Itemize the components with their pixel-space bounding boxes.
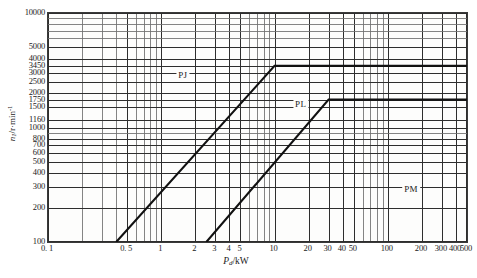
y-tick-label: 5000 bbox=[29, 42, 45, 51]
x-tick-label: 0. 1 bbox=[41, 243, 53, 253]
y-tick-label: 500 bbox=[33, 157, 45, 166]
x-tick-label: 10 bbox=[269, 243, 277, 253]
y-tick-label: 1000 bbox=[29, 122, 45, 131]
x-tick-label: 2 bbox=[192, 243, 196, 253]
x-tick-label: 4 bbox=[226, 243, 230, 253]
x-tick-label: 40 bbox=[338, 243, 346, 253]
y-tick-label: 300 bbox=[33, 182, 45, 191]
y-axis-tick-labels: 1000050004000345030002500200017501500116… bbox=[0, 12, 477, 241]
x-tick-label: 1 bbox=[158, 243, 162, 253]
y-tick-label: 400 bbox=[33, 168, 45, 177]
x-axis-title: Pd/kW bbox=[0, 256, 472, 267]
x-tick-label: 200 bbox=[415, 243, 427, 253]
x-tick-label: 50 bbox=[349, 243, 357, 253]
x-tick-label: 30 bbox=[324, 243, 332, 253]
x-tick-label: 500 bbox=[460, 243, 472, 253]
x-axis-tick-labels: 0. 10. 5123451020304050100200300400500 bbox=[47, 243, 466, 257]
x-tick-label: 100 bbox=[381, 243, 393, 253]
x-tick-label: 3 bbox=[212, 243, 216, 253]
y-tick-label: 200 bbox=[33, 202, 45, 211]
y-tick-label: 10000 bbox=[25, 8, 45, 17]
x-tick-label: 0. 5 bbox=[120, 243, 132, 253]
x-tick-label: 300 bbox=[435, 243, 447, 253]
y-tick-label: 1500 bbox=[29, 102, 45, 111]
y-tick-label: 2500 bbox=[29, 77, 45, 86]
y-axis-title: n1/r·min-1 bbox=[6, 82, 17, 166]
x-tick-label: 5 bbox=[237, 243, 241, 253]
x-tick-label: 20 bbox=[304, 243, 312, 253]
